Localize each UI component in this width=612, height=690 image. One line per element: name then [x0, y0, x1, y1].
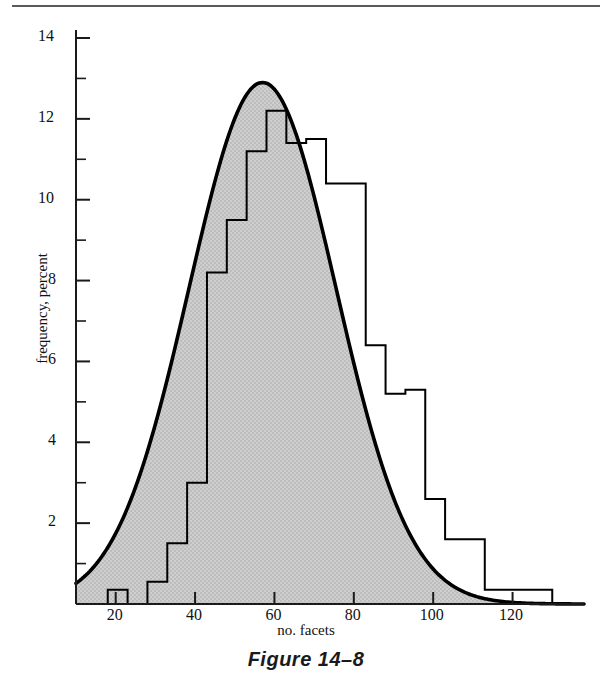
- y-tick-label: 14: [38, 27, 54, 45]
- y-tick-label: 10: [38, 189, 54, 207]
- y-tick-label: 12: [38, 108, 54, 126]
- y-tick-label: 2: [48, 512, 56, 530]
- figure-14-8: 2468101214 20406080100120 frequency, per…: [0, 0, 612, 690]
- figure-caption: Figure 14–8: [0, 648, 612, 671]
- histogram-chart: [0, 0, 612, 690]
- y-axis-ticks: [76, 38, 90, 564]
- x-axis-label: no. facets: [0, 622, 612, 639]
- y-axis-label: frequency, percent: [34, 229, 51, 389]
- y-tick-label: 4: [48, 431, 56, 449]
- curve-shaded-area: [76, 82, 584, 604]
